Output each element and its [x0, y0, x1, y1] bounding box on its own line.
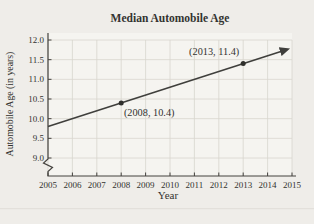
- y-tick-label: 9.5: [33, 133, 45, 143]
- y-tick-label: 9.0: [33, 153, 45, 163]
- chart-svg: 12.011.511.010.510.09.59.020052006200720…: [0, 0, 314, 224]
- x-tick-label: 2012: [210, 180, 228, 190]
- x-tick-label: 2006: [63, 180, 82, 190]
- x-tick-label: 2013: [234, 180, 253, 190]
- x-tick-label: 2014: [259, 180, 278, 190]
- data-point: [241, 61, 246, 66]
- page: { "chart_data": { "type": "line", "title…: [0, 0, 314, 224]
- data-point-label: (2013, 11.4): [189, 46, 239, 58]
- page-edge-shadow: [0, 208, 314, 209]
- x-tick-label: 2015: [283, 180, 302, 190]
- y-tick-label: 12.0: [28, 35, 44, 45]
- x-tick-label: 2008: [112, 180, 131, 190]
- data-point-label: (2008, 10.4): [124, 107, 175, 119]
- chart-figure: 12.011.511.010.510.09.59.020052006200720…: [0, 0, 314, 224]
- x-axis-title: Year: [158, 189, 179, 201]
- x-tick-label: 2005: [39, 180, 58, 190]
- chart-title: Median Automobile Age: [111, 12, 230, 25]
- x-tick-label: 2010: [161, 180, 180, 190]
- y-axis-title: Automobile Age (in years): [4, 52, 16, 157]
- y-tick-label: 10.5: [28, 94, 44, 104]
- y-tick-label: 11.5: [29, 55, 45, 65]
- y-tick-label: 10.0: [28, 114, 44, 124]
- data-point: [119, 100, 124, 105]
- x-tick-label: 2009: [137, 180, 156, 190]
- y-tick-label: 11.0: [29, 74, 45, 84]
- x-tick-label: 2011: [186, 180, 204, 190]
- x-tick-label: 2007: [88, 180, 107, 190]
